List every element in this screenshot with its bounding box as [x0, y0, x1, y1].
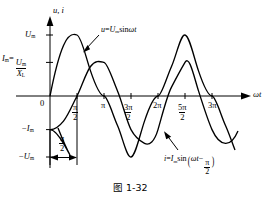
x-tick-label-2pi: 2π [153, 101, 162, 110]
y-tick-label-Im-formula: Im=UmXL [2, 54, 28, 79]
x-tick-label-3pi-over-2: 3π2 [122, 99, 135, 121]
voltage-equation-label: u=Umsinωt [101, 26, 136, 35]
y-axis-label: u, i [53, 6, 64, 15]
x-tick-label-pi-over-2: π2 [71, 99, 79, 121]
x-axis-label: ωt [253, 90, 261, 99]
y-axis-label-i: i [62, 5, 64, 15]
origin-label: 0 [40, 99, 44, 108]
x-tick-label-3pi: 3π [208, 101, 217, 110]
x-tick-label-5pi-over-2: 5π2 [176, 99, 189, 121]
y-tick-label-neg-Um: −Um [19, 152, 34, 162]
current-equation-label: i=Imsin(ωt−π2) [164, 155, 215, 176]
y-tick-label-neg-Im: −Im [22, 124, 34, 134]
figure-caption: 图 1-32 [113, 183, 148, 193]
y-tick-label-Um: Um [25, 30, 35, 40]
voltage-leader-arrow [83, 35, 99, 53]
phase-shift-label: π2 [58, 130, 66, 152]
current-leader-arrow [164, 131, 178, 150]
im-fraction: UmXL [15, 58, 27, 79]
x-tick-label-pi: π [101, 101, 105, 110]
figure-container: u, i ωt Um Im=UmXL −Im −Um 0 π2 π 3π2 2π… [0, 0, 271, 201]
